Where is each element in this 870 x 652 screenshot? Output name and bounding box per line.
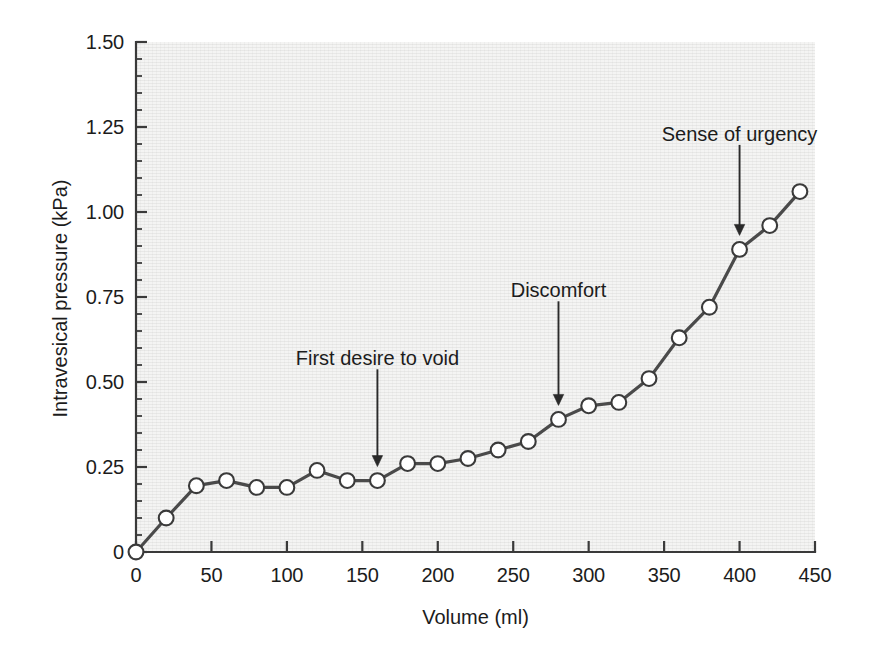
annotation-label: First desire to void: [296, 347, 459, 370]
x-tick-label: 350: [648, 564, 681, 587]
data-point-marker: [491, 443, 506, 458]
data-point-marker: [249, 480, 264, 495]
data-point-marker: [521, 434, 536, 449]
y-axis-title: Intravesical pressure (kPa): [49, 39, 72, 559]
annotation-label: Discomfort: [511, 279, 607, 302]
x-tick-label: 100: [270, 564, 303, 587]
data-point-marker: [340, 473, 355, 488]
data-point-marker: [672, 330, 687, 345]
data-point-marker: [732, 242, 747, 257]
x-tick-label: 250: [497, 564, 530, 587]
data-point-marker: [189, 478, 204, 493]
x-axis-title: Volume (ml): [136, 606, 815, 629]
y-tick-label: 0.75: [86, 286, 124, 309]
data-point-marker: [129, 545, 144, 560]
data-point-marker: [793, 184, 808, 199]
data-point-marker: [461, 451, 476, 466]
chart-canvas: [0, 0, 870, 652]
annotation-label: Sense of urgency: [662, 123, 818, 146]
data-point-marker: [430, 456, 445, 471]
y-tick-label: 1.25: [86, 116, 124, 139]
annotation-arrow-head: [372, 456, 382, 467]
data-point-marker: [581, 398, 596, 413]
x-tick-label: 450: [799, 564, 832, 587]
data-point-marker: [611, 395, 626, 410]
y-tick-label: 1.00: [86, 201, 124, 224]
data-point-marker: [642, 371, 657, 386]
x-tick-label: 50: [201, 564, 223, 587]
chart-figure: 00.250.500.751.001.251.50050100150200250…: [0, 0, 870, 652]
data-point-marker: [279, 480, 294, 495]
y-tick-label: 0: [113, 541, 124, 564]
series-line: [136, 192, 800, 552]
x-tick-label: 150: [346, 564, 379, 587]
x-tick-label: 400: [723, 564, 756, 587]
data-point-marker: [310, 463, 325, 478]
y-tick-label: 0.50: [86, 371, 124, 394]
data-point-marker: [762, 218, 777, 233]
data-point-marker: [551, 412, 566, 427]
data-point-marker: [702, 300, 717, 315]
x-tick-label: 300: [572, 564, 605, 587]
x-tick-label: 200: [421, 564, 454, 587]
data-point-marker: [400, 456, 415, 471]
data-point-marker: [159, 511, 174, 526]
y-tick-label: 1.50: [86, 31, 124, 54]
data-series: [129, 184, 808, 559]
x-tick-label: 0: [131, 564, 142, 587]
annotation-arrow-head: [734, 224, 744, 235]
data-point-marker: [219, 473, 234, 488]
data-point-marker: [370, 473, 385, 488]
y-tick-label: 0.25: [86, 456, 124, 479]
annotation-arrow-head: [553, 394, 563, 405]
